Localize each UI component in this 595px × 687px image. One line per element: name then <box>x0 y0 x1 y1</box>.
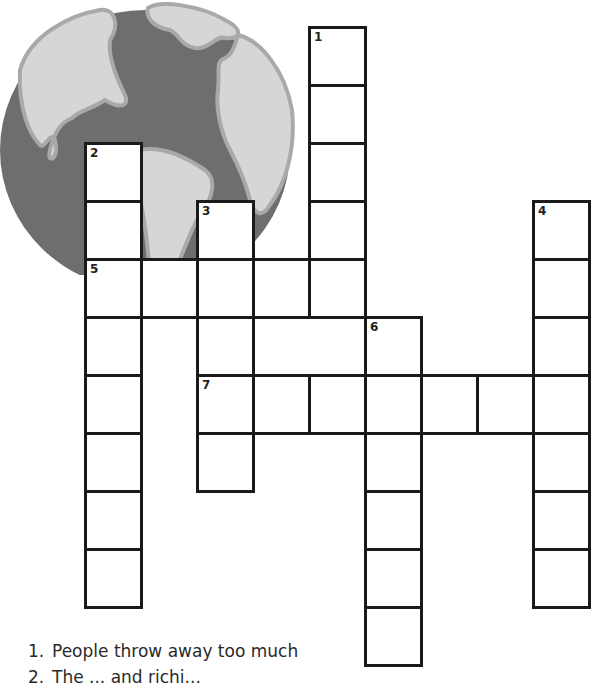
crossword-cell[interactable] <box>308 142 367 203</box>
crossword-cell[interactable] <box>308 84 367 145</box>
clue-number-label: 3 <box>202 205 210 217</box>
clue-item: 1.People throw away too much <box>28 638 298 664</box>
crossword-cell[interactable] <box>532 316 591 377</box>
crossword-cell[interactable] <box>364 548 423 609</box>
clue-list: 1.People throw away too much 2.The ... a… <box>28 638 298 687</box>
crossword-cell[interactable]: 4 <box>532 200 591 261</box>
clue-item: 2.The ... and richi... <box>28 664 298 687</box>
clue-text: The ... and richi... <box>52 667 201 687</box>
crossword-cell[interactable] <box>196 316 255 377</box>
clue-number-label: 5 <box>90 263 98 275</box>
clue-text: People throw away too much <box>52 641 298 661</box>
clue-number: 2. <box>28 664 52 687</box>
clue-number-label: 6 <box>370 321 378 333</box>
crossword-cell[interactable] <box>308 374 367 435</box>
crossword-cell[interactable] <box>252 258 311 319</box>
crossword-cell[interactable] <box>364 374 423 435</box>
crossword-cell[interactable] <box>532 374 591 435</box>
clue-number: 1. <box>28 638 52 664</box>
crossword-cell[interactable] <box>84 548 143 609</box>
crossword-cell[interactable]: 3 <box>196 200 255 261</box>
clue-number-label: 1 <box>314 31 322 43</box>
crossword-cell[interactable] <box>196 432 255 493</box>
crossword-cell[interactable] <box>84 490 143 551</box>
crossword-cell[interactable] <box>532 258 591 319</box>
crossword-cell[interactable] <box>308 258 367 319</box>
crossword-cell[interactable]: 7 <box>196 374 255 435</box>
crossword-cell[interactable] <box>84 200 143 261</box>
crossword-cell[interactable] <box>84 374 143 435</box>
clue-number-label: 4 <box>538 205 546 217</box>
crossword-cell[interactable] <box>252 374 311 435</box>
crossword-cell[interactable] <box>532 548 591 609</box>
crossword-cell[interactable]: 1 <box>308 26 367 87</box>
crossword-cell[interactable] <box>140 258 199 319</box>
crossword-cell[interactable] <box>364 606 423 667</box>
crossword-cell[interactable] <box>84 432 143 493</box>
globe-illustration <box>0 0 300 275</box>
crossword-cell[interactable] <box>364 432 423 493</box>
crossword-cell[interactable] <box>476 374 535 435</box>
crossword-cell[interactable] <box>364 490 423 551</box>
crossword-cell[interactable] <box>532 490 591 551</box>
clue-number-label: 7 <box>202 379 210 391</box>
crossword-cell[interactable]: 2 <box>84 142 143 203</box>
crossword-cell[interactable] <box>84 316 143 377</box>
crossword-cell[interactable] <box>532 432 591 493</box>
crossword-cell[interactable] <box>196 258 255 319</box>
crossword-cell[interactable]: 6 <box>364 316 423 377</box>
crossword-cell[interactable] <box>420 374 479 435</box>
crossword-cell[interactable]: 5 <box>84 258 143 319</box>
crossword-cell[interactable] <box>308 200 367 261</box>
clue-number-label: 2 <box>90 147 98 159</box>
